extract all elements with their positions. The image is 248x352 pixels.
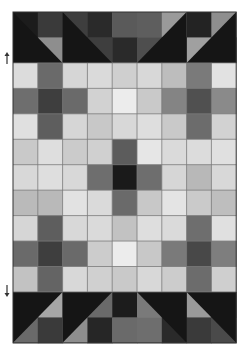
quilt-cell xyxy=(38,241,63,267)
quilt-cell xyxy=(187,241,212,267)
quilt-cell xyxy=(13,241,38,267)
quilt-cell xyxy=(137,114,162,140)
arrow-down-icon xyxy=(3,285,11,297)
quilt-cell xyxy=(137,216,162,242)
quilt-cell xyxy=(112,63,137,89)
quilt-cell xyxy=(162,165,187,191)
quilt-cell xyxy=(112,37,137,63)
quilt-cell xyxy=(187,267,212,293)
quilt-cell xyxy=(162,267,187,293)
quilt-cell xyxy=(13,216,38,242)
quilt-cell xyxy=(38,88,63,114)
quilt-cell xyxy=(137,139,162,165)
quilt-cell xyxy=(112,88,137,114)
quilt-cell xyxy=(187,63,212,89)
quilt-cell xyxy=(211,241,236,267)
quilt-cell xyxy=(162,241,187,267)
quilt-cell xyxy=(38,267,63,293)
quilt-cell xyxy=(162,190,187,216)
quilt-cell xyxy=(211,190,236,216)
quilt-cell xyxy=(162,63,187,89)
quilt-cell xyxy=(112,216,137,242)
quilt-cell xyxy=(211,267,236,293)
quilt-cell xyxy=(187,139,212,165)
quilt-cell xyxy=(112,241,137,267)
quilt-cell xyxy=(112,317,137,343)
quilt-cell xyxy=(13,114,38,140)
quilt-cell xyxy=(211,165,236,191)
quilt-cell xyxy=(137,63,162,89)
quilt-cell xyxy=(211,88,236,114)
quilt-cell xyxy=(162,139,187,165)
quilt-cell xyxy=(211,63,236,89)
quilt-cell xyxy=(87,165,112,191)
quilt-cell xyxy=(162,216,187,242)
quilt-cell xyxy=(211,216,236,242)
quilt-cell xyxy=(187,317,212,343)
quilt-cell xyxy=(162,88,187,114)
quilt-cell xyxy=(38,190,63,216)
quilt-cell xyxy=(63,216,88,242)
quilt-cell xyxy=(211,139,236,165)
quilt-cell xyxy=(137,190,162,216)
quilt-cell xyxy=(137,12,162,38)
quilt-cell xyxy=(63,267,88,293)
quilt-cell xyxy=(187,190,212,216)
quilt-cell xyxy=(87,190,112,216)
quilt-cell xyxy=(63,165,88,191)
quilt-cell xyxy=(13,165,38,191)
quilt-cell xyxy=(137,317,162,343)
quilt-cell xyxy=(38,139,63,165)
quilt-cell xyxy=(112,190,137,216)
quilt-cell xyxy=(63,88,88,114)
quilt-cell xyxy=(112,292,137,318)
quilt-cell xyxy=(112,267,137,293)
quilt-pattern xyxy=(0,0,248,352)
quilt-cell xyxy=(63,63,88,89)
arrow-up-icon xyxy=(3,52,11,64)
quilt-cell xyxy=(87,63,112,89)
quilt-cell xyxy=(87,139,112,165)
quilt-cell xyxy=(87,12,112,38)
quilt-cell xyxy=(87,267,112,293)
quilt-cell xyxy=(187,12,212,38)
quilt-cell xyxy=(87,88,112,114)
quilt-cell xyxy=(13,267,38,293)
quilt-cell xyxy=(87,241,112,267)
quilt-cell xyxy=(38,114,63,140)
quilt-cell xyxy=(211,114,236,140)
quilt-cell xyxy=(187,114,212,140)
quilt-cell xyxy=(87,114,112,140)
quilt-cell xyxy=(38,317,63,343)
quilt-cell xyxy=(137,88,162,114)
quilt-cell xyxy=(38,216,63,242)
quilt-cell xyxy=(112,12,137,38)
quilt-cell xyxy=(63,241,88,267)
quilt-cell xyxy=(187,216,212,242)
quilt-cell xyxy=(112,139,137,165)
quilt-cell xyxy=(38,12,63,38)
quilt-cell xyxy=(13,139,38,165)
quilt-cell xyxy=(38,63,63,89)
quilt-cell xyxy=(13,88,38,114)
quilt-cell xyxy=(112,165,137,191)
quilt-cell xyxy=(162,114,187,140)
quilt-cell xyxy=(38,165,63,191)
quilt-cell xyxy=(112,114,137,140)
quilt-cell xyxy=(87,216,112,242)
quilt-cell xyxy=(137,165,162,191)
quilt-cell xyxy=(13,190,38,216)
quilt-cell xyxy=(187,165,212,191)
quilt-cell xyxy=(63,139,88,165)
quilt-cell xyxy=(187,88,212,114)
quilt-cell xyxy=(87,317,112,343)
quilt-cell xyxy=(63,190,88,216)
quilt-cell xyxy=(137,267,162,293)
quilt-cell xyxy=(63,114,88,140)
quilt-cell xyxy=(13,63,38,89)
quilt-cell xyxy=(137,241,162,267)
